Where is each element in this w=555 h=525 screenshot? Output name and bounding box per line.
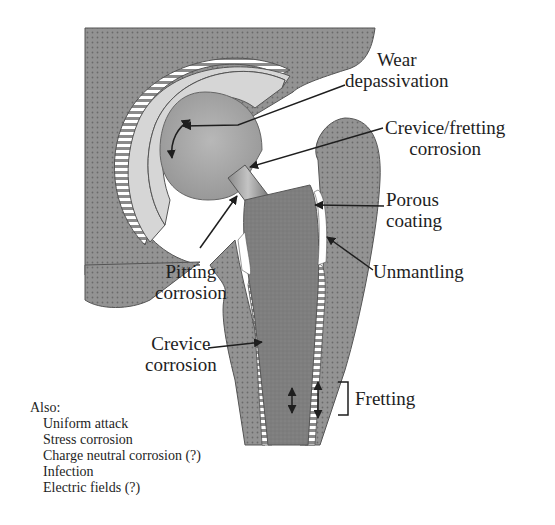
label-line: Crevice bbox=[145, 333, 217, 354]
label-line: Pitting bbox=[155, 261, 227, 282]
label-crevice-corrosion: Crevice corrosion bbox=[145, 333, 217, 375]
label-wear-depassivation: Wear depassivation bbox=[345, 49, 448, 91]
also-item: Stress corrosion bbox=[30, 432, 201, 448]
label-unmantling: Unmantling bbox=[373, 261, 464, 282]
also-item: Electric fields (?) bbox=[30, 480, 201, 496]
label-porous-coating: Porous coating bbox=[386, 189, 442, 231]
label-line: corrosion bbox=[385, 138, 505, 159]
label-line: Porous bbox=[386, 189, 442, 210]
label-fretting: Fretting bbox=[355, 388, 415, 409]
label-line: coating bbox=[386, 210, 442, 231]
also-item: Infection bbox=[30, 464, 201, 480]
also-list: Also: Uniform attack Stress corrosion Ch… bbox=[30, 400, 201, 496]
label-line: Wear bbox=[345, 49, 448, 70]
label-crevice-fretting-corrosion: Crevice/fretting corrosion bbox=[385, 117, 505, 159]
also-heading: Also: bbox=[30, 400, 201, 416]
label-pitting-corrosion: Pitting corrosion bbox=[155, 261, 227, 303]
label-line: Crevice/fretting bbox=[385, 117, 505, 138]
label-line: corrosion bbox=[155, 282, 227, 303]
also-item: Uniform attack bbox=[30, 416, 201, 432]
label-line: depassivation bbox=[345, 70, 448, 91]
also-item: Charge neutral corrosion (?) bbox=[30, 448, 201, 464]
label-line: corrosion bbox=[145, 354, 217, 375]
